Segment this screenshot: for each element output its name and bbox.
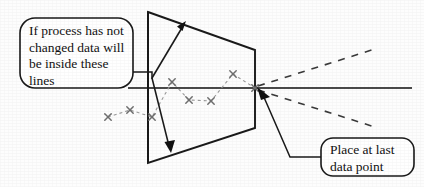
- left-callout-leader: [133, 72, 152, 79]
- right-callout-leader: [263, 95, 321, 157]
- place-at-last-data-point-callout-label: Place at last data point: [330, 142, 394, 175]
- diagram-canvas: If process has not changed data will be …: [0, 0, 424, 187]
- lower-projection-dashed-icon: [258, 90, 378, 128]
- process-unchanged-callout-label: If process has not changed data will be …: [29, 23, 124, 89]
- upper-projection-dashed-icon: [258, 48, 378, 86]
